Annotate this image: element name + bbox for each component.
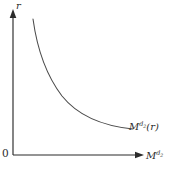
- x-axis-label-base: M: [146, 150, 156, 161]
- x-axis-label-subscript: 2: [160, 153, 163, 158]
- curve-label-argument: (r): [146, 121, 159, 132]
- figure-canvas: [0, 0, 172, 171]
- x-axis-label-superscript-group: d2: [156, 149, 163, 157]
- y-axis-label-text: r: [16, 0, 21, 11]
- money-demand-figure: r 0 Md2 Md2(r): [0, 0, 172, 171]
- y-axis-label: r: [16, 1, 21, 11]
- money-demand-curve: [33, 19, 133, 129]
- origin-label: 0: [2, 148, 9, 159]
- x-axis-label: Md2: [146, 150, 163, 161]
- curve-label-base: M: [129, 121, 139, 132]
- x-axis-arrow-icon: [135, 152, 144, 159]
- curve-label: Md2(r): [129, 121, 159, 132]
